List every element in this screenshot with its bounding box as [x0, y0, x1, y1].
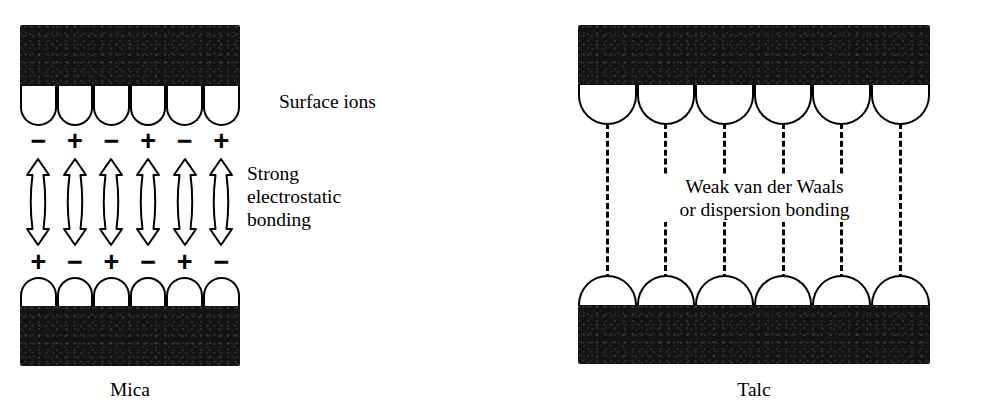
mica-top-lobe: [166, 86, 203, 126]
talc-bottom-lobe: [754, 275, 813, 307]
charge-sign: −: [93, 127, 130, 155]
mica-top-charge-row: − + − + − +: [20, 127, 240, 155]
vdw-bond-dashed-line: [899, 123, 902, 280]
caption-mica: Mica: [20, 379, 240, 401]
strong-electrostatic-bonding-label: Strong electrostatic bonding: [245, 163, 379, 231]
charge-sign: +: [57, 127, 94, 155]
surface-ions-label: Surface ions: [277, 91, 378, 114]
talc-top-lobe: [578, 85, 637, 125]
talc-top-lobe: [812, 85, 871, 125]
charge-sign: +: [130, 127, 167, 155]
panel-mica: − + − + − +: [0, 0, 500, 418]
electrostatic-bond-arrow-icon: [23, 157, 53, 247]
mica-top-lobe: [20, 86, 57, 126]
mica-bottom-lobe-row: [20, 277, 240, 308]
electrostatic-bond-arrow-icon: [170, 157, 200, 247]
mica-bottom-slab: [20, 306, 240, 366]
talc-top-slab: [578, 25, 930, 87]
mica-top-lobe: [93, 86, 130, 126]
mica-top-lobe: [57, 86, 94, 126]
charge-sign: +: [203, 127, 240, 155]
electrostatic-bond-arrow-icon: [133, 157, 163, 247]
mica-top-lobe: [203, 86, 240, 126]
panel-talc: Weak van der Waals or dispersion bonding…: [500, 0, 1005, 418]
mica-bottom-lobe: [57, 277, 94, 308]
talc-bottom-lobe: [578, 275, 637, 307]
mica-top-slab: [20, 25, 240, 88]
vdw-bond-dashed-line: [606, 123, 609, 280]
caption-talc: Talc: [578, 379, 930, 401]
mica-top-lobe-row: [20, 86, 240, 126]
talc-bottom-slab: [578, 305, 930, 364]
mica-top-lobe: [130, 86, 167, 126]
charge-sign: −: [57, 248, 94, 276]
talc-top-lobe: [754, 85, 813, 125]
talc-bottom-lobe-row: [578, 275, 930, 307]
talc-top-lobe-row: [578, 85, 930, 125]
charge-sign: −: [166, 127, 203, 155]
talc-bottom-lobe: [637, 275, 696, 307]
talc-bottom-lobe: [812, 275, 871, 307]
talc-top-lobe: [871, 85, 930, 125]
mica-bottom-charge-row: + − + − + −: [20, 248, 240, 276]
charge-sign: +: [93, 248, 130, 276]
mica-bottom-lobe: [93, 277, 130, 308]
mica-bottom-lobe: [166, 277, 203, 308]
charge-sign: −: [203, 248, 240, 276]
talc-bottom-lobe: [871, 275, 930, 307]
talc-top-lobe: [637, 85, 696, 125]
bonding-diagram-figure: − + − + − +: [0, 0, 1005, 418]
weak-vdw-bonding-label: Weak van der Waals or dispersion bonding: [655, 176, 874, 222]
charge-sign: −: [20, 127, 57, 155]
mica-bottom-lobe: [20, 277, 57, 308]
mica-bottom-lobe: [130, 277, 167, 308]
mica-bond-arrow-row: [20, 157, 240, 247]
charge-sign: +: [166, 248, 203, 276]
charge-sign: −: [130, 248, 167, 276]
talc-bottom-lobe: [695, 275, 754, 307]
charge-sign: +: [20, 248, 57, 276]
electrostatic-bond-arrow-icon: [206, 157, 236, 247]
talc-top-lobe: [695, 85, 754, 125]
mica-bottom-lobe: [203, 277, 240, 308]
electrostatic-bond-arrow-icon: [60, 157, 90, 247]
electrostatic-bond-arrow-icon: [96, 157, 126, 247]
